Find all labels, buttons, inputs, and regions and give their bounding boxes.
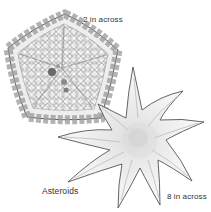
illustration-canvas bbox=[0, 0, 211, 212]
pentagonal-asteroid bbox=[8, 14, 118, 120]
small-specimen-size-label: 2 in across bbox=[83, 15, 123, 24]
figure-title: Asteroids bbox=[42, 186, 78, 196]
large-specimen-size-label: 8 in across bbox=[167, 192, 207, 201]
madreporite-plate bbox=[48, 68, 56, 76]
asteroid-illustration bbox=[0, 0, 211, 212]
